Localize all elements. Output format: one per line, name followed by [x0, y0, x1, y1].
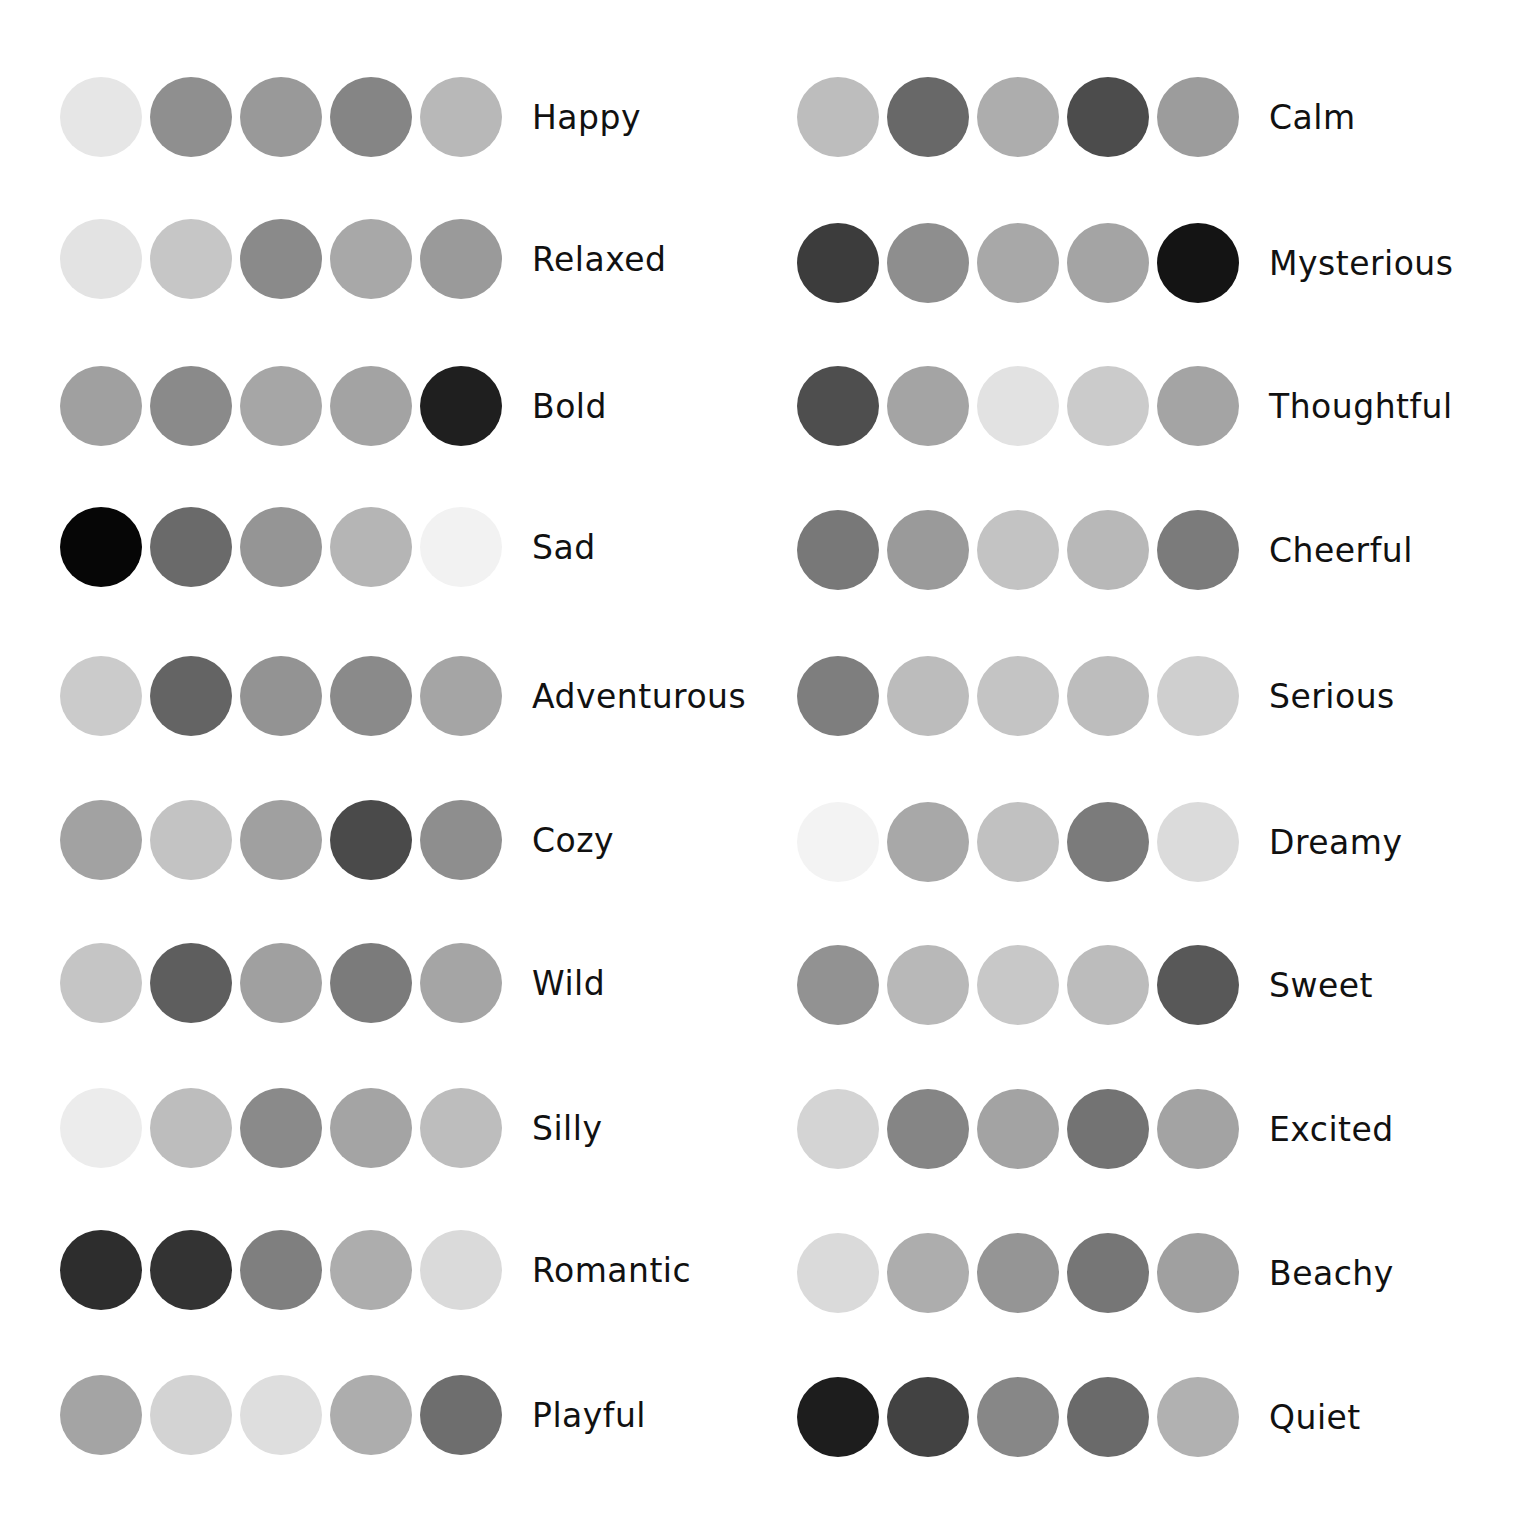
color-swatch — [150, 1230, 232, 1310]
color-swatch — [1067, 1377, 1149, 1457]
color-swatch — [60, 1375, 142, 1455]
swatch-group — [797, 656, 1239, 736]
color-swatch — [1067, 77, 1149, 157]
mood-label: Relaxed — [532, 240, 666, 279]
color-swatch — [150, 1375, 232, 1455]
color-swatch — [240, 366, 322, 446]
swatch-group — [797, 223, 1239, 303]
color-swatch — [1067, 656, 1149, 736]
color-swatch — [977, 77, 1059, 157]
swatch-group — [60, 1088, 502, 1168]
color-swatch — [60, 366, 142, 446]
palette-row-cozy: Cozy — [60, 799, 614, 881]
palette-row-adventurous: Adventurous — [60, 655, 746, 737]
color-swatch — [420, 507, 502, 587]
palette-row-bold: Bold — [60, 365, 607, 447]
color-swatch — [420, 1230, 502, 1310]
palette-row-quiet: Quiet — [797, 1376, 1361, 1458]
color-swatch — [1157, 945, 1239, 1025]
palette-row-wild: Wild — [60, 942, 605, 1024]
mood-label: Silly — [532, 1109, 602, 1148]
color-swatch — [420, 366, 502, 446]
palette-row-thoughtful: Thoughtful — [797, 365, 1453, 447]
color-swatch — [240, 1230, 322, 1310]
swatch-group — [60, 1375, 502, 1455]
color-swatch — [977, 656, 1059, 736]
color-swatch — [977, 1089, 1059, 1169]
color-swatch — [977, 1377, 1059, 1457]
swatch-group — [797, 77, 1239, 157]
color-swatch — [330, 77, 412, 157]
color-swatch — [797, 656, 879, 736]
color-swatch — [150, 656, 232, 736]
mood-label: Romantic — [532, 1251, 691, 1290]
color-swatch — [330, 1375, 412, 1455]
color-swatch — [330, 800, 412, 880]
swatch-group — [797, 1089, 1239, 1169]
color-swatch — [1067, 945, 1149, 1025]
color-swatch — [977, 223, 1059, 303]
palette-row-mysterious: Mysterious — [797, 222, 1453, 304]
color-swatch — [420, 77, 502, 157]
color-swatch — [797, 77, 879, 157]
color-swatch — [60, 219, 142, 299]
swatch-group — [797, 1377, 1239, 1457]
mood-label: Wild — [532, 964, 605, 1003]
mood-label: Calm — [1269, 98, 1356, 137]
color-swatch — [420, 943, 502, 1023]
color-swatch — [977, 945, 1059, 1025]
color-swatch — [1067, 223, 1149, 303]
mood-label: Playful — [532, 1396, 646, 1435]
mood-label: Dreamy — [1269, 823, 1402, 862]
color-swatch — [1157, 77, 1239, 157]
color-swatch — [1157, 1089, 1239, 1169]
swatch-group — [60, 219, 502, 299]
swatch-group — [797, 1233, 1239, 1313]
color-swatch — [60, 507, 142, 587]
palette-row-dreamy: Dreamy — [797, 801, 1402, 883]
color-swatch — [977, 802, 1059, 882]
mood-label: Excited — [1269, 1110, 1394, 1149]
color-swatch — [60, 656, 142, 736]
color-swatch — [977, 1233, 1059, 1313]
swatch-group — [60, 77, 502, 157]
mood-label: Happy — [532, 98, 641, 137]
color-swatch — [1067, 1233, 1149, 1313]
mood-label: Mysterious — [1269, 244, 1453, 283]
color-swatch — [240, 77, 322, 157]
color-swatch — [887, 366, 969, 446]
color-swatch — [887, 945, 969, 1025]
palette-row-cheerful: Cheerful — [797, 509, 1413, 591]
palette-row-playful: Playful — [60, 1374, 646, 1456]
color-swatch — [797, 1233, 879, 1313]
swatch-group — [60, 800, 502, 880]
color-swatch — [887, 1233, 969, 1313]
color-swatch — [797, 366, 879, 446]
color-swatch — [330, 366, 412, 446]
color-swatch — [1067, 1089, 1149, 1169]
color-swatch — [330, 219, 412, 299]
swatch-group — [60, 656, 502, 736]
color-swatch — [887, 656, 969, 736]
swatch-group — [60, 943, 502, 1023]
color-swatch — [150, 1088, 232, 1168]
color-swatch — [330, 1230, 412, 1310]
color-swatch — [240, 507, 322, 587]
color-swatch — [887, 1377, 969, 1457]
color-swatch — [1067, 802, 1149, 882]
palette-row-silly: Silly — [60, 1087, 602, 1169]
mood-label: Beachy — [1269, 1254, 1394, 1293]
palette-row-beachy: Beachy — [797, 1232, 1394, 1314]
color-swatch — [330, 1088, 412, 1168]
swatch-group — [797, 510, 1239, 590]
color-swatch — [240, 800, 322, 880]
palette-row-serious: Serious — [797, 655, 1395, 737]
palette-row-sweet: Sweet — [797, 944, 1373, 1026]
color-swatch — [1157, 223, 1239, 303]
color-swatch — [330, 507, 412, 587]
color-swatch — [977, 510, 1059, 590]
color-swatch — [60, 77, 142, 157]
color-swatch — [1067, 510, 1149, 590]
color-swatch — [60, 800, 142, 880]
color-swatch — [1157, 1377, 1239, 1457]
